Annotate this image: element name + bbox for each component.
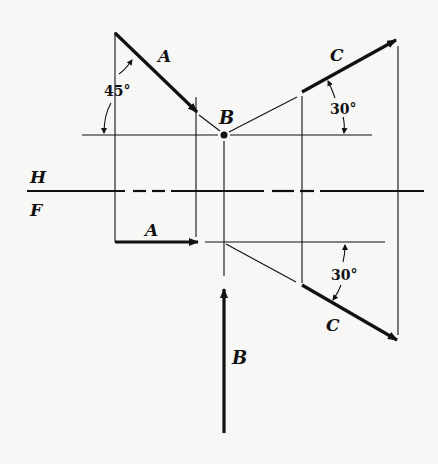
vector-a-top [115,33,197,112]
angle-30-front-label: 30° [331,267,357,283]
projection-diagram: H F A 45° B C 30° [0,0,438,464]
vector-c-front [302,285,397,340]
label-f: F [29,200,44,220]
label-a-top: A [156,46,171,66]
angle-30-top-label: 30° [330,101,356,117]
label-b-top: B [218,107,234,128]
angle-45-label: 45° [104,83,130,99]
projection-lines [82,32,398,335]
vector-c-top [302,40,396,92]
label-c-front: C [326,315,340,335]
label-h: H [29,167,47,187]
point-b-top [221,132,228,139]
label-b-front: B [231,347,247,368]
label-a-front: A [143,220,158,240]
label-c-top: C [330,45,344,65]
